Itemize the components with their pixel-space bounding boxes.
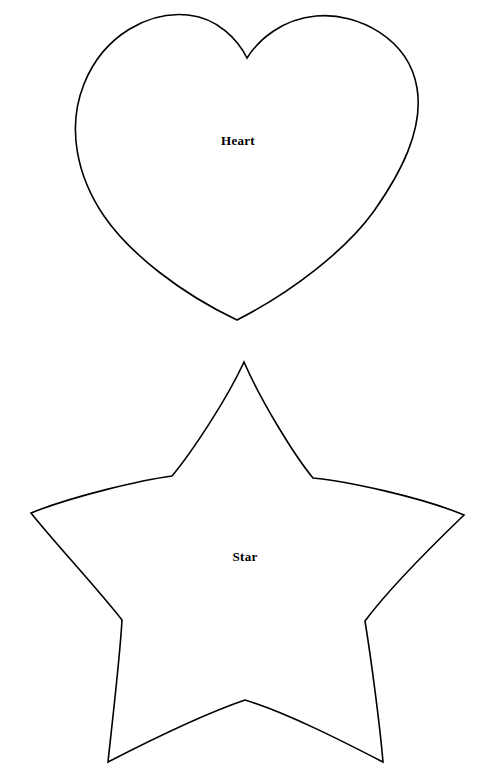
template-page: Heart Star [0,0,485,777]
heart-label: Heart [221,133,255,149]
heart-outline [75,15,418,320]
star-label: Star [232,549,257,565]
shapes-canvas [0,0,485,777]
